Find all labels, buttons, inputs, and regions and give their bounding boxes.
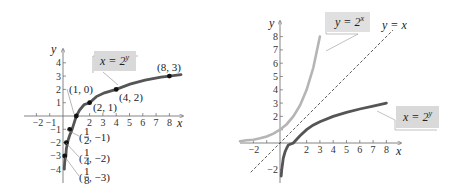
svg-text:4: 4 <box>331 144 336 155</box>
svg-text:6: 6 <box>357 144 362 155</box>
left-y-axis-label: y <box>50 42 57 56</box>
svg-text:3: 3 <box>273 98 278 109</box>
svg-text:8: 8 <box>273 31 278 42</box>
right-exp-label: y = 2x <box>334 14 364 29</box>
label-point-8-3: (8, 3) <box>157 61 181 74</box>
right-identity-label: y = x <box>381 18 407 32</box>
svg-text:, −2): , −2) <box>89 152 110 165</box>
svg-text:2: 2 <box>56 84 61 95</box>
left-x-axis-label: x <box>176 116 183 130</box>
svg-text:−4: −4 <box>50 164 61 175</box>
right-chart: x y −2 2 3 4 5 6 7 8 8 7 6 5 <box>240 12 439 183</box>
svg-text:5: 5 <box>344 144 349 155</box>
svg-text:2: 2 <box>273 111 278 122</box>
svg-text:3: 3 <box>317 144 322 155</box>
right-log-label: x = 2y <box>402 109 432 124</box>
svg-text:3: 3 <box>56 71 61 82</box>
label-point-half: ( 1 2 , −1) <box>79 125 110 146</box>
svg-text:(: ( <box>79 171 83 184</box>
svg-text:−2: −2 <box>267 164 278 175</box>
svg-text:4: 4 <box>56 57 61 68</box>
svg-text:7: 7 <box>154 117 159 128</box>
right-curve-log <box>281 103 386 176</box>
right-x-axis-label: x <box>395 144 402 158</box>
svg-text:1: 1 <box>56 97 61 108</box>
svg-text:−2: −2 <box>50 137 61 148</box>
svg-text:−1: −1 <box>50 124 61 135</box>
left-chart: x y −2 −1 2 3 4 5 6 7 8 4 3 <box>24 42 183 186</box>
svg-text:(: ( <box>79 131 83 144</box>
svg-text:7: 7 <box>371 144 376 155</box>
svg-text:5: 5 <box>273 71 278 82</box>
svg-text:8: 8 <box>167 117 172 128</box>
right-y-axis-label: y <box>268 16 275 30</box>
left-eq-label: x = 2y <box>99 53 129 68</box>
label-point-2-1: (2, 1) <box>93 101 117 114</box>
svg-text:, −3): , −3) <box>89 171 110 184</box>
svg-text:−3: −3 <box>50 150 61 161</box>
figure: x y −2 −1 2 3 4 5 6 7 8 4 3 <box>0 0 462 195</box>
right-y-tick-labels: 8 7 6 5 4 3 2 −2 <box>267 31 278 175</box>
svg-text:−2: −2 <box>249 144 260 155</box>
svg-text:8: 8 <box>384 144 389 155</box>
svg-text:6: 6 <box>273 58 278 69</box>
svg-text:, −1): , −1) <box>89 131 110 144</box>
svg-text:6: 6 <box>140 117 145 128</box>
label-point-eighth: ( 1 8 , −3) <box>79 165 110 186</box>
svg-text:3: 3 <box>100 117 105 128</box>
svg-text:(: ( <box>79 152 83 165</box>
svg-text:−2: −2 <box>33 117 44 128</box>
svg-text:5: 5 <box>127 117 132 128</box>
svg-text:4: 4 <box>114 117 119 128</box>
svg-text:4: 4 <box>273 84 278 95</box>
svg-text:7: 7 <box>273 44 278 55</box>
label-point-1-0: (1, 0) <box>69 83 93 96</box>
label-point-quarter: ( 1 4 , −2) <box>79 146 110 167</box>
svg-text:2: 2 <box>304 144 309 155</box>
label-point-4-2: (4, 2) <box>119 91 143 104</box>
